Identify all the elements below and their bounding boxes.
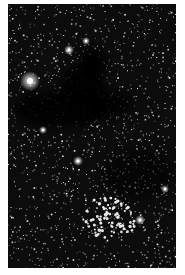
background-stars xyxy=(8,4,176,268)
star-field-svg xyxy=(8,4,176,268)
star-field-image xyxy=(8,4,176,268)
star-cluster xyxy=(82,197,135,239)
dark-nebula xyxy=(13,48,173,199)
